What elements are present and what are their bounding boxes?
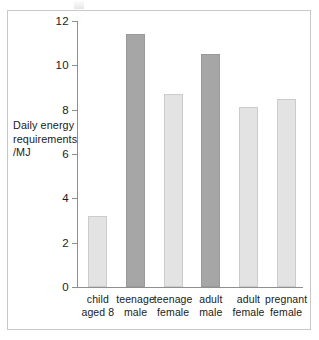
category-label-line: pregnant <box>255 293 317 306</box>
bar-adult-female <box>239 107 258 287</box>
y-tick-4: 4 <box>77 198 78 199</box>
y-tick-label: 8 <box>62 104 69 116</box>
y-tick-mark <box>72 198 77 199</box>
y-tick-0: 0 <box>77 287 78 288</box>
y-tick-2: 2 <box>77 243 78 244</box>
category-label-pregnant-female: pregnantfemale <box>255 293 317 318</box>
x-axis-line <box>77 287 303 288</box>
y-tick-6: 6 <box>77 154 78 155</box>
y-tick-mark <box>72 243 77 244</box>
y-tick-label: 2 <box>62 237 69 249</box>
y-tick-mark <box>72 110 77 111</box>
y-tick-8: 8 <box>77 110 78 111</box>
y-tick-label: 10 <box>55 59 69 71</box>
y-tick-label: 4 <box>62 192 69 204</box>
bar-teenage-male <box>126 34 145 287</box>
y-tick-label: 0 <box>62 281 69 293</box>
bar-child-aged-8 <box>88 216 107 287</box>
scan-artifact <box>74 0 84 9</box>
bar-adult-male <box>201 54 220 287</box>
category-label-line: female <box>255 306 317 319</box>
y-tick-mark <box>72 287 77 288</box>
y-axis-title-line-2: requirements <box>13 133 77 147</box>
y-tick-12: 12 <box>77 21 78 22</box>
bar-chart-figure: Daily energy requirements /MJ 024681012 … <box>0 0 319 340</box>
y-tick-label: 6 <box>62 148 69 160</box>
y-tick-10: 10 <box>77 65 78 66</box>
y-tick-label: 12 <box>55 15 69 27</box>
bar-teenage-female <box>164 94 183 287</box>
bar-pregnant-female <box>277 99 296 287</box>
y-tick-mark <box>72 65 77 66</box>
y-tick-mark <box>72 21 77 22</box>
y-tick-mark <box>72 154 77 155</box>
plot-area: 024681012 childaged 8teenagemaleteenagef… <box>77 21 303 288</box>
y-axis-title-line-1: Daily energy <box>13 119 77 133</box>
